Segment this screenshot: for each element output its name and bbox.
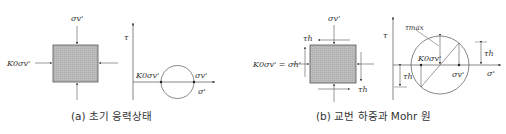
sigma-v-label: σv'	[71, 14, 83, 23]
tau-h-top-label: τh	[303, 34, 313, 43]
k0-equals-sigma-h-label: K0σv' = σh'	[252, 60, 301, 69]
sigma-axis-label: σ'	[198, 87, 206, 96]
sigma-v-point	[458, 64, 460, 66]
mohr-sigma-v-label: σv'	[195, 71, 207, 80]
stress-diagram: σv' K0σv' τ σ' K0σv' σv' (a) 초기 응력상태	[0, 0, 506, 134]
sigma-v-point	[193, 81, 195, 83]
panel-a: σv' K0σv' τ σ' K0σv' σv' (a) 초기 응력상태	[6, 14, 215, 122]
caption-b: (b) 교번 하중과 Mohr 원	[316, 110, 431, 122]
tau-axis-label: τ	[383, 31, 388, 40]
tau-h-bottom-label: τh	[358, 85, 368, 94]
tau-h-right-label: τh	[484, 49, 494, 58]
mohr-sigma-v-label: σv'	[452, 70, 464, 79]
soil-element-cyclic: σv' K0σv' = σh' τh τh	[252, 14, 374, 102]
tau-max-leader	[416, 30, 439, 46]
soil-element-initial: σv' K0σv'	[6, 14, 118, 100]
mohr-circle-cyclic: τ σ' τmax K0σv' σv' τh τh	[383, 17, 501, 100]
sigma-v-label: σv'	[328, 14, 340, 23]
soil-element-square	[310, 45, 356, 83]
k0-point	[420, 64, 422, 66]
sigma-axis-label: σ'	[487, 69, 495, 78]
panel-b: σv' K0σv' = σh' τh τh τ	[252, 14, 501, 122]
k0-sigma-v-label: K0σv'	[6, 59, 30, 68]
mohr-circle-initial: τ σ' K0σv' σv'	[124, 23, 215, 100]
soil-element-square	[53, 45, 98, 82]
mohr-k0-label: K0σv'	[135, 71, 159, 80]
mohr-k0-label: K0σv'	[417, 54, 441, 63]
tau-h-left-label: τh	[403, 72, 413, 81]
caption-a: (a) 초기 응력상태	[71, 110, 152, 122]
tau-axis-label: τ	[124, 33, 129, 42]
k0-point	[160, 81, 162, 83]
tau-max-label: τmax	[405, 24, 424, 32]
